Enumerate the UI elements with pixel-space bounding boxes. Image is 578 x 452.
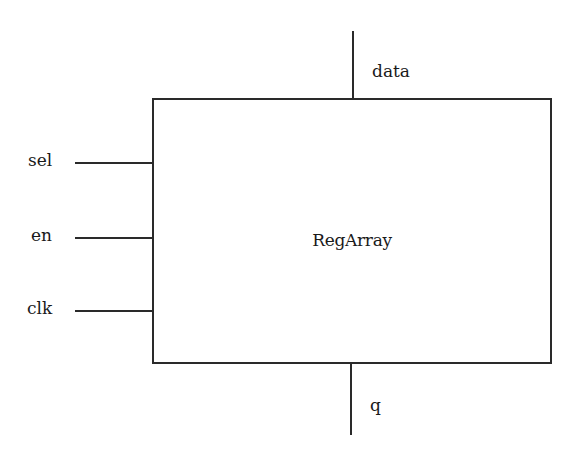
- sel-wire: [75, 162, 153, 164]
- block-diagram: data RegArray sel en clk q: [0, 0, 578, 452]
- q-port-label: q: [370, 395, 381, 415]
- q-wire: [350, 364, 352, 435]
- data-port-label: data: [372, 61, 410, 81]
- regarray-block: RegArray: [152, 98, 552, 364]
- clk-wire: [75, 310, 153, 312]
- en-port-label: en: [31, 225, 52, 245]
- data-wire: [352, 31, 354, 99]
- block-name-label: RegArray: [154, 230, 550, 250]
- en-wire: [75, 237, 153, 239]
- sel-port-label: sel: [28, 150, 52, 170]
- clk-port-label: clk: [27, 298, 52, 318]
